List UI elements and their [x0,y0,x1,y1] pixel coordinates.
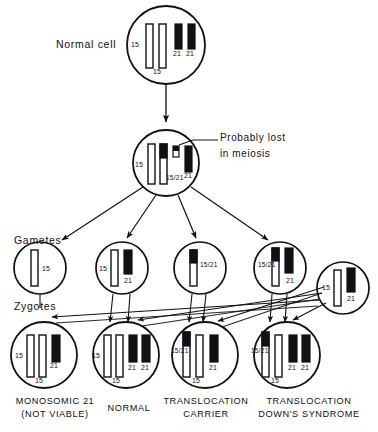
normal-cell-label-21-left: 21 [173,50,181,58]
caption-monosomic-line2: (NOT VIABLE) [0,409,110,420]
probably-lost-note-line1: Probably lost [220,132,286,144]
caption-monosomic-line1: MONOSOMIC 21 [0,396,110,407]
caption-carrier-line2: CARRIER [156,409,256,420]
caption-normal: NORMAL [98,403,160,414]
gamete-15-only-circle [14,242,66,294]
diagram-canvas: Normal cell Probably lost in meiosis Gam… [0,0,378,432]
caption-downs-line2: DOWN'S SYNDROME [245,409,373,420]
carrier-cell-label-15: 15 [135,161,143,169]
caption-carrier-line1: TRANSLOCATION [156,396,256,407]
gamete-1-label-15: 15 [42,265,50,273]
zygote-1-label-15-left: 15 [15,352,23,360]
zygote-4-label-15: 15 [271,377,279,385]
gamete-5-label-21: 21 [347,295,355,303]
carrier-cell-label-translocation: 15/21 [166,175,184,182]
zygote-2-label-21-left: 21 [128,364,136,372]
normal-cell-label-15-bottom: 15 [153,68,161,76]
carrier-cell-label-21: 21 [184,172,192,180]
normal-cell-label-21-right: 21 [186,50,194,58]
zygote-2-label-21-right: 21 [141,364,149,372]
probably-lost-note-line2: in meiosis [220,148,270,160]
zygote-3-label-21: 21 [209,364,217,372]
zygote-normal-circle [93,322,159,388]
caption-downs-line1: TRANSLOCATION [245,396,373,407]
zygote-3-label-15: 15 [192,377,200,385]
zygote-1-label-21: 21 [50,362,58,370]
gamete-2-label-15: 15 [99,265,107,273]
gamete-2-label-21: 21 [124,277,132,285]
normal-cell-label: Normal cell [56,38,116,50]
zygotes-label: Zygotes [14,300,56,312]
gamete-4-label-21: 21 [286,277,294,285]
zygote-1-label-15-bottom: 15 [35,377,43,385]
zygote-3-label-translocation: 15/21 [171,348,189,355]
zygote-2-label-15-bottom: 15 [112,377,120,385]
zygote-2-label-15-left: 15 [92,352,100,360]
zygote-4-label-21-left: 21 [288,364,296,372]
zygote-translocation-carrier-circle [172,322,238,388]
gamete-5-label-15: 15 [322,284,330,292]
zygote-translocation-downs-circle [254,322,320,388]
gamete-4-label-translocation: 15/21 [258,262,276,269]
gametes-label: Gametes [14,234,62,246]
zygote-4-label-21-right: 21 [301,364,309,372]
gamete-3-label-translocation: 15/21 [200,262,218,269]
normal-cell-label-15-left: 15 [131,41,139,49]
zygote-4-label-translocation: 15/21 [251,348,269,355]
